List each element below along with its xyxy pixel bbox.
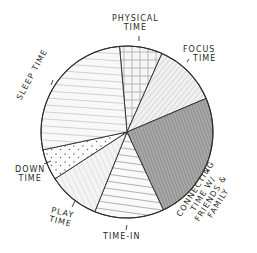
label-focus-time: FOCUS TIME (183, 45, 216, 63)
tick-sleep (51, 80, 53, 85)
label-down-time: DOWN TIME (15, 165, 45, 183)
label-text: TIME (112, 23, 159, 32)
label-text: TIME (183, 54, 216, 63)
label-text: TIME (15, 174, 45, 183)
label-time-in: TIME-IN (103, 232, 140, 241)
label-text: FOCUS (183, 45, 216, 54)
label-physical-time: PHYSICAL TIME (112, 14, 159, 32)
pie-chart (0, 0, 257, 253)
pie-slice-sleep-time (41, 46, 127, 150)
label-text: DOWN (15, 165, 45, 174)
tick-timein (126, 225, 127, 230)
label-text: PHYSICAL (112, 14, 159, 23)
label-text: TIME-IN (103, 232, 140, 241)
tick-play (72, 201, 75, 207)
